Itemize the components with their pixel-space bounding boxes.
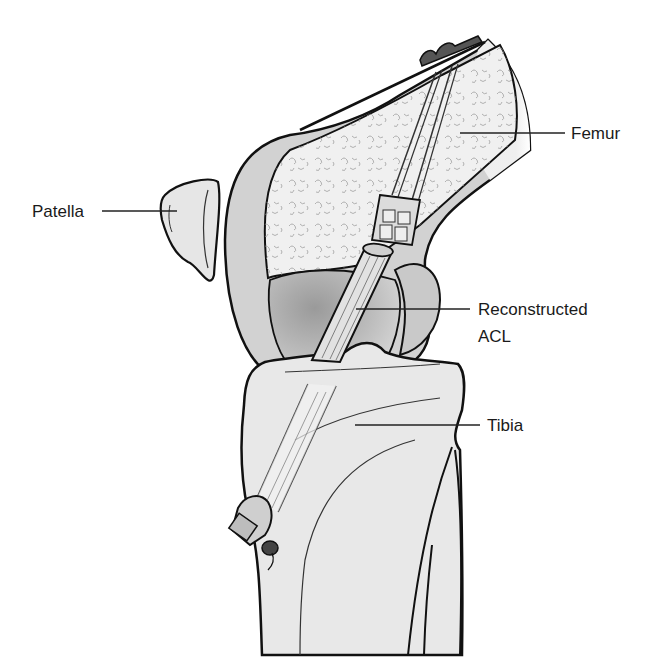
- label-tibia: Tibia: [487, 415, 523, 436]
- femoral-fixation-device: [372, 195, 420, 245]
- label-acl-line1: Reconstructed: [478, 299, 588, 320]
- label-femur: Femur: [571, 123, 620, 144]
- patella: [161, 180, 220, 281]
- label-reconstructed-acl: Reconstructed ACL: [478, 299, 588, 348]
- label-patella: Patella: [32, 201, 84, 222]
- tibia: [229, 343, 464, 655]
- label-acl-line2: ACL: [478, 326, 588, 347]
